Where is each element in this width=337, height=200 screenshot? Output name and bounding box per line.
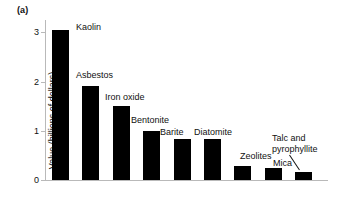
y-tick-label: 2	[34, 77, 39, 87]
y-tick-label: 3	[34, 27, 39, 37]
bar-label-mica: Mica	[273, 158, 292, 169]
bar-talc-and-pyrophyllite	[295, 172, 312, 180]
bar-label-asbestos: Asbestos	[76, 70, 113, 81]
bar-kaolin	[52, 30, 69, 180]
y-tick-mark	[41, 131, 45, 132]
bar-asbestos	[82, 86, 99, 180]
y-tick-label: 1	[34, 126, 39, 136]
bar-zeolites	[234, 166, 251, 180]
bar-chart-plot-area: 0123 Value (billions of dollars) KaolinA…	[45, 20, 328, 181]
y-tick-label: 0	[34, 175, 39, 185]
bar-label-bentonite: Bentonite	[131, 115, 169, 126]
y-tick-mark	[41, 32, 45, 33]
bar-label-iron-oxide: Iron oxide	[105, 92, 145, 103]
bar-mica	[265, 168, 282, 180]
bar-label-kaolin: Kaolin	[76, 22, 101, 33]
bar-label-diatomite: Diatomite	[194, 127, 232, 138]
bar-label-talc-and: Talc and pyrophyllite	[272, 133, 318, 154]
bar-diatomite	[204, 139, 221, 180]
figure-panel-a: (a) 0123 Value (billions of dollars) Kao…	[0, 0, 337, 200]
bar-barite	[174, 139, 191, 180]
y-tick-mark	[41, 180, 45, 181]
panel-label: (a)	[17, 5, 28, 15]
y-tick-mark	[41, 82, 45, 83]
bar-label-barite: Barite	[160, 127, 184, 138]
y-axis-line	[45, 20, 46, 181]
bar-label-zeolites: Zeolites	[240, 151, 272, 162]
bar-bentonite	[143, 131, 160, 180]
bar-iron-oxide	[113, 106, 130, 180]
x-axis-line	[45, 180, 328, 181]
